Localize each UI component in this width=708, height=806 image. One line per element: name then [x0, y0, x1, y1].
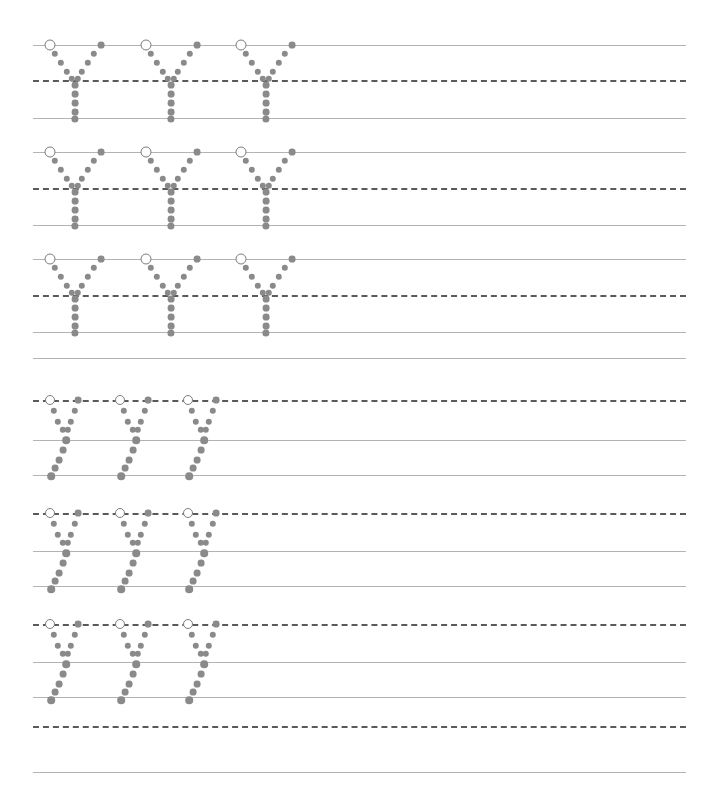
- uppercase-y-row-3-letter-1-trace-dot-2: [58, 274, 64, 280]
- uppercase-y-row-1-letter-2-trace-dot-8: [175, 69, 181, 75]
- lowercase-y-row-3-letter-1-trace-dot-12: [47, 696, 55, 704]
- uppercase-y-row-3-letter-1-trace-dot-7: [85, 274, 91, 280]
- uppercase-y-row-3-letter-3-start-circle-icon: [236, 254, 247, 265]
- lowercase-y-row-1-letter-2-trace-dot-2: [125, 419, 131, 425]
- lowercase-y-row-1-x-height-rule: [33, 400, 686, 402]
- uppercase-y-row-2-letter-2-trace-dot-3: [160, 176, 166, 182]
- uppercase-y-row-2-top-rule: [33, 152, 686, 153]
- uppercase-y-row-2-letter-1-trace-dot-12: [72, 207, 79, 214]
- uppercase-y-row-2-letter-1-trace-dot-5: [98, 149, 105, 156]
- uppercase-y-row-1-letter-1-trace-dot-2: [58, 60, 64, 66]
- lowercase-y-row-2-letter-1-trace-dot-4: [75, 510, 82, 517]
- uppercase-y-row-2-letter-2-trace-dot-6: [187, 158, 193, 164]
- lowercase-y-row-3-letter-1-trace-dot-5: [72, 632, 78, 638]
- uppercase-y-row-3-letter-2-trace-dot-13: [168, 323, 175, 330]
- uppercase-y-row-3-letter-3-trace-dot-1: [243, 265, 249, 271]
- lowercase-y-row-3-letter-1-trace-dot-7: [65, 651, 71, 657]
- lowercase-y-row-3-letter-3-trace-dot-1: [189, 632, 195, 638]
- uppercase-y-row-2-letter-3-trace-dot-6: [282, 158, 288, 164]
- uppercase-y-row-2-letter-2-trace-dot-2: [154, 167, 160, 173]
- lowercase-y-row-1-letter-2-trace-dot-7: [135, 427, 141, 433]
- uppercase-y-row-3-mid-rule: [33, 295, 686, 297]
- lowercase-y-row-3-letter-1-trace-dot-11: [52, 689, 59, 696]
- lowercase-y-row-1-letter-2-start-circle-icon: [115, 395, 125, 405]
- uppercase-y-row-3-letter-1-trace-dot-6: [91, 265, 97, 271]
- lowercase-y-row-1-letter-3-trace-dot-10: [194, 457, 201, 464]
- lowercase-y-row-1-letter-2-trace-dot-9: [130, 447, 137, 454]
- lowercase-y-row-2-letter-1-trace-dot-9: [60, 560, 67, 567]
- uppercase-y-row-1-letter-3-trace-dot-11: [263, 91, 270, 98]
- uppercase-y-row-3-letter-2-start-circle-icon: [141, 254, 152, 265]
- uppercase-y-row-1-letter-3-trace-dot-5: [289, 42, 296, 49]
- lowercase-y-row-1-letter-2-trace-dot-10: [126, 457, 133, 464]
- uppercase-y-row-3-letter-2-trace-dot-6: [187, 265, 193, 271]
- uppercase-y-row-3-letter-2-trace-dot-5: [194, 256, 201, 263]
- lowercase-y-row-2-letter-2-trace-dot-11: [122, 578, 129, 585]
- uppercase-y-row-3-letter-3-trace-dot-2: [249, 274, 255, 280]
- uppercase-y-row-3-base-rule: [33, 332, 686, 333]
- uppercase-y-row-2-letter-3-trace-dot-11: [263, 198, 270, 205]
- lowercase-y-row-1-letter-3-trace-dot-5: [210, 408, 216, 414]
- lowercase-y-row-3-letter-1-trace-dot-1: [51, 632, 57, 638]
- lowercase-y-row-3-letter-3-trace-dot-9: [198, 671, 205, 678]
- lowercase-y-row-3-letter-1-start-circle-icon: [45, 619, 55, 629]
- uppercase-y-row-3-letter-3-trace-dot-13: [263, 323, 270, 330]
- lowercase-y-row-3-letter-3-trace-dot-5: [210, 632, 216, 638]
- uppercase-y-row-1-letter-3-trace-dot-1: [243, 51, 249, 57]
- uppercase-y-row-3-letter-3-trace-dot-6: [282, 265, 288, 271]
- lowercase-y-row-2-letter-2-trace-dot-9: [130, 560, 137, 567]
- uppercase-y-row-2-letter-2-start-circle-icon: [141, 147, 152, 158]
- lowercase-y-row-3-letter-1-trace-dot-10: [56, 681, 63, 688]
- lowercase-y-row-1-letter-2-trace-dot-5: [142, 408, 148, 414]
- lowercase-y-row-2-letter-1-start-circle-icon: [45, 508, 55, 518]
- uppercase-y-row-2-letter-1-trace-dot-8: [79, 176, 85, 182]
- lowercase-y-row-3-letter-1-trace-dot-4: [75, 621, 82, 628]
- uppercase-y-row-1-letter-1-trace-dot-13: [72, 109, 79, 116]
- lowercase-y-row-2-letter-3-start-circle-icon: [183, 508, 193, 518]
- lowercase-y-row-3-letter-3-trace-dot-7: [203, 651, 209, 657]
- uppercase-y-row-3-letter-1-trace-dot-5: [98, 256, 105, 263]
- uppercase-y-row-3-letter-1-trace-dot-14: [71, 329, 78, 336]
- uppercase-y-row-1-letter-2-start-circle-icon: [141, 40, 152, 51]
- lowercase-y-row-1-letter-3-trace-dot-1: [189, 408, 195, 414]
- uppercase-y-row-3-letter-1-trace-dot-3: [64, 283, 70, 289]
- uppercase-y-row-2-letter-1-trace-dot-2: [58, 167, 64, 173]
- uppercase-y-row-1-letter-1-trace-dot-8: [79, 69, 85, 75]
- uppercase-y-row-3-letter-2-trace-dot-1: [148, 265, 154, 271]
- lowercase-y-row-2-letter-3-trace-dot-12: [185, 585, 193, 593]
- uppercase-y-row-2-letter-1-trace-dot-13: [72, 216, 79, 223]
- lowercase-y-row-3-letter-1-trace-dot-9: [60, 671, 67, 678]
- lowercase-y-row-2-letter-1-trace-dot-7: [65, 540, 71, 546]
- lowercase-y-row-1-letter-1-start-circle-icon: [45, 395, 55, 405]
- uppercase-y-row-1-letter-3-trace-dot-3: [255, 69, 261, 75]
- uppercase-y-row-2-mid-rule: [33, 188, 686, 190]
- lowercase-y-row-1-ascender-rule: [33, 358, 686, 359]
- lowercase-y-row-3-letter-3-trace-dot-8: [200, 660, 208, 668]
- uppercase-y-row-1-letter-1-trace-dot-5: [98, 42, 105, 49]
- lowercase-y-row-2-x-height-rule: [33, 513, 686, 515]
- uppercase-y-row-3-letter-2-trace-dot-14: [167, 329, 174, 336]
- lowercase-y-row-2-letter-2-trace-dot-8: [132, 549, 140, 557]
- uppercase-y-row-1-letter-2-trace-dot-12: [168, 100, 175, 107]
- lowercase-y-row-3-base-rule: [33, 662, 686, 663]
- lowercase-y-row-1-letter-1-trace-dot-8: [62, 436, 70, 444]
- lowercase-y-row-3-letter-1-trace-dot-6: [68, 643, 74, 649]
- lowercase-y-row-1-descender-rule: [33, 475, 686, 476]
- uppercase-y-row-2-letter-3-trace-dot-3: [255, 176, 261, 182]
- lowercase-y-row-1-letter-2-trace-dot-12: [117, 472, 125, 480]
- lowercase-y-row-1-letter-3-trace-dot-9: [198, 447, 205, 454]
- uppercase-y-row-2-letter-2-trace-dot-13: [168, 216, 175, 223]
- lowercase-y-row-1-letter-2-trace-dot-4: [145, 397, 152, 404]
- uppercase-y-row-2-letter-1-trace-dot-6: [91, 158, 97, 164]
- uppercase-y-row-1-top-rule: [33, 45, 686, 46]
- lowercase-y-row-3-letter-2-trace-dot-12: [117, 696, 125, 704]
- lowercase-y-row-3-letter-3-trace-dot-4: [213, 621, 220, 628]
- uppercase-y-row-3-letter-2-trace-dot-3: [160, 283, 166, 289]
- lowercase-y-row-2-letter-2-trace-dot-6: [138, 532, 144, 538]
- lowercase-y-row-2-letter-1-trace-dot-5: [72, 521, 78, 527]
- lowercase-y-row-3-letter-2-trace-dot-9: [130, 671, 137, 678]
- uppercase-y-row-2-letter-3-trace-dot-7: [276, 167, 282, 173]
- uppercase-y-row-3-letter-2-trace-dot-10: [168, 296, 175, 303]
- uppercase-y-row-2-letter-3-trace-dot-1: [243, 158, 249, 164]
- uppercase-y-row-1-letter-2-trace-dot-1: [148, 51, 154, 57]
